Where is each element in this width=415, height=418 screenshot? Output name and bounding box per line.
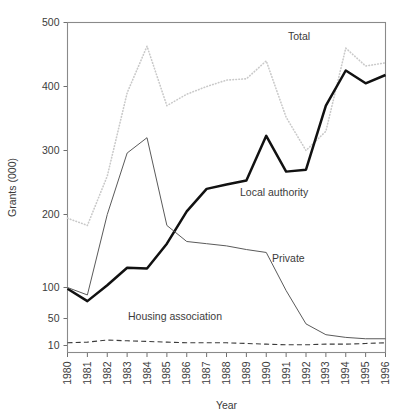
chart-background [0,0,415,418]
y-tick-label: 400 [42,80,60,92]
x-tick-label: 1986 [180,361,192,385]
x-axis-title: Year [216,399,238,411]
y-tick-label: 300 [42,144,60,156]
x-tick-label: 1985 [160,361,172,385]
x-tick-label: 1984 [141,361,153,385]
line-chart: 1050100200300400500 19801981198219831984… [0,0,415,418]
x-tick-label: 1987 [200,361,212,385]
series-label-private: Private [272,252,305,264]
y-axis-title: Grants (000) [6,158,18,217]
x-tick-label: 1994 [339,361,351,385]
series-label-local-authority: Local authority [240,186,309,198]
series-label-total: Total [288,30,310,42]
x-tick-label: 1990 [260,361,272,385]
x-tick-label: 1981 [81,361,93,385]
x-tick-label: 1992 [300,361,312,385]
y-tick-label: 500 [42,16,60,28]
x-tick-label: 1995 [359,361,371,385]
x-tick-label: 1993 [319,361,331,385]
chart-figure: 1050100200300400500 19801981198219831984… [0,0,415,418]
y-tick-label: 100 [42,281,60,293]
x-tick-label: 1983 [121,361,133,385]
x-tick-label: 1996 [379,361,391,385]
x-tick-label: 1980 [61,361,73,385]
x-tick-label: 1988 [220,361,232,385]
x-tick-label: 1989 [240,361,252,385]
y-tick-label: 50 [48,312,60,324]
y-tick-label: 10 [48,339,60,351]
y-tick-label: 200 [42,208,60,220]
x-tick-label: 1982 [101,361,113,385]
x-tick-label: 1991 [280,361,292,385]
series-label-housing-association: Housing association [128,310,222,322]
